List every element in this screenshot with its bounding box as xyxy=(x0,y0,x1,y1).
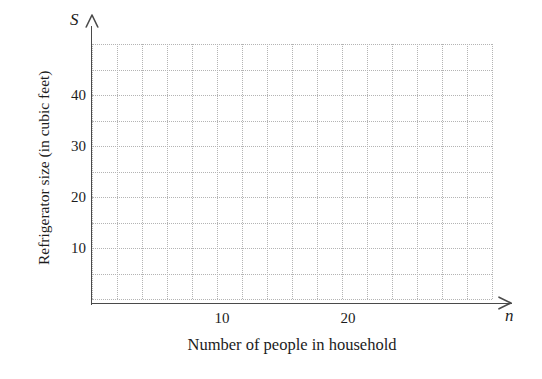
x-axis-symbol: n xyxy=(505,307,514,324)
grid-line-vertical xyxy=(492,44,493,299)
x-axis-title: Number of people in household xyxy=(92,337,492,354)
grid-line-horizontal xyxy=(92,299,492,300)
grid-line-horizontal xyxy=(92,95,492,96)
grid-line-horizontal xyxy=(92,274,492,275)
y-axis-line xyxy=(91,26,92,305)
y-axis-arrowhead-icon xyxy=(84,14,100,30)
grid-line-horizontal xyxy=(92,146,492,147)
grid-line-horizontal xyxy=(92,121,492,122)
grid-line-horizontal xyxy=(92,70,492,71)
grid-line-horizontal xyxy=(92,197,492,198)
grid-line-horizontal xyxy=(92,248,492,249)
x-tick-label: 20 xyxy=(328,311,368,326)
grid-line-horizontal xyxy=(92,223,492,224)
chart-figure: S n 40 30 20 10 10 20 Refrigerator size … xyxy=(0,0,542,379)
grid-line-horizontal xyxy=(92,44,492,45)
plot-area xyxy=(92,44,492,299)
x-tick-label: 10 xyxy=(202,311,242,326)
grid-line-horizontal xyxy=(92,172,492,173)
x-axis-line xyxy=(91,303,512,304)
y-axis-title: Refrigerator size (in cubic feet) xyxy=(36,18,52,318)
